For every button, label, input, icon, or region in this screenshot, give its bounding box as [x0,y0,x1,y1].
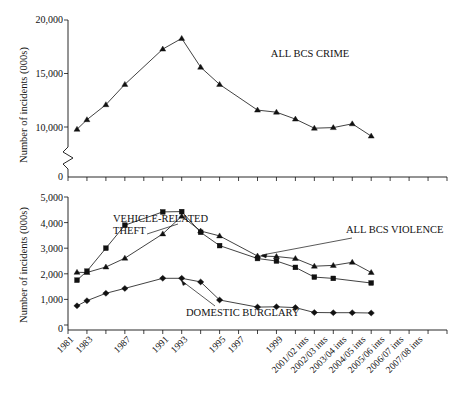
top-chart-ytick-0: 0 [58,171,63,182]
xtick-label-1999: 1999 [264,334,285,355]
top-chart: Number of incidents (000s) 20,000 15,000… [18,14,447,182]
bottom-chart-annotation-vehicle-theft-line2: THEFT [113,225,146,236]
bottom-chart-y-ticks [64,197,68,325]
bottom-chart-ytick-0: 0 [58,323,63,334]
bottom-chart-x-ticks [68,330,447,334]
xtick-label-1995: 1995 [207,334,228,355]
bottom-chart-leader-all-bcs-violence [262,238,352,255]
chart-svg: Number of incidents (000s) 20,000 15,000… [0,0,453,394]
bottom-chart-ytick-1000: 1,000 [41,294,64,305]
top-chart-ytick-20000: 20,000 [36,14,64,25]
bottom-chart-ytick-3000: 3,000 [41,243,64,254]
crime-statistics-figure: Number of incidents (000s) 20,000 15,000… [0,0,453,394]
xtick-label-1991: 1991 [150,334,171,355]
top-chart-annotation-all-bcs-crime: ALL BCS CRIME [271,48,349,59]
xtick-label-1987: 1987 [112,334,133,355]
bottom-chart-ytick-2000: 2,000 [41,269,64,280]
top-chart-ytick-10000: 10,000 [36,122,64,133]
bottom-chart-leader-domestic-burglary [182,281,215,306]
x-axis-tick-labels: 1981 1983 1987 1991 1993 1995 1997 1999 … [55,334,425,375]
top-chart-x-ticks [68,177,447,181]
top-chart-axis-break-icon [63,147,73,169]
xtick-label-1981: 1981 [55,334,76,355]
bottom-chart: Number of incidents (000s) 5,000 4,000 3… [18,192,447,375]
bottom-chart-annotation-vehicle-theft-line1: VEHICLE-RELATED [113,213,208,224]
bottom-chart-ytick-5000: 5,000 [41,192,64,203]
xtick-label-1983: 1983 [74,334,95,355]
bottom-chart-annotation-all-bcs-violence: ALL BCS VIOLENCE [346,224,443,235]
bottom-chart-ytick-4000: 4,000 [41,218,64,229]
top-chart-y-axis-label: Number of incidents (000s) [18,47,30,163]
top-chart-ytick-15000: 15,000 [36,68,64,79]
bottom-chart-annotation-domestic-burglary: DOMESTIC BURGLARY [186,307,300,318]
xtick-label-1993: 1993 [169,334,190,355]
bottom-chart-y-axis-label: Number of incidents (000s) [18,207,30,323]
xtick-label-1997: 1997 [226,334,247,355]
bottom-chart-leader-arrow-violence [261,254,267,258]
bottom-chart-leader-arrow-burglary [182,281,187,286]
